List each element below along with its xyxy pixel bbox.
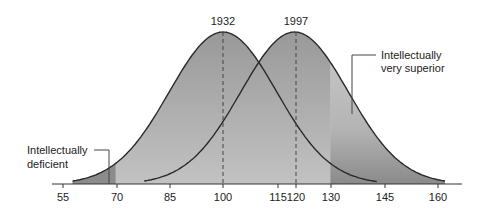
tick-label: 160 bbox=[429, 191, 447, 203]
iq-distribution-chart: 1932 1997 557085100115120130145160 Intel… bbox=[0, 0, 486, 216]
deficient-label-line2: deficient bbox=[27, 158, 68, 170]
tick-label: 145 bbox=[376, 191, 394, 203]
tick-label: 115 bbox=[269, 191, 287, 203]
year-label-1932: 1932 bbox=[211, 15, 235, 27]
area-very-superior bbox=[330, 62, 445, 184]
superior-label-line2: very superior bbox=[381, 62, 445, 74]
tick-label: 120 bbox=[287, 191, 305, 203]
year-label-1997: 1997 bbox=[284, 15, 308, 27]
tick-label: 55 bbox=[57, 191, 69, 203]
superior-label-line1: Intellectually bbox=[381, 49, 442, 61]
tick-label: 130 bbox=[322, 191, 340, 203]
tick-label: 85 bbox=[164, 191, 176, 203]
annotation-superior: Intellectually very superior bbox=[352, 49, 445, 114]
x-axis-ticks: 557085100115120130145160 bbox=[57, 184, 447, 203]
tick-label: 70 bbox=[111, 191, 123, 203]
tick-label: 100 bbox=[214, 191, 232, 203]
deficient-label-line1: Intellectually bbox=[27, 144, 88, 156]
